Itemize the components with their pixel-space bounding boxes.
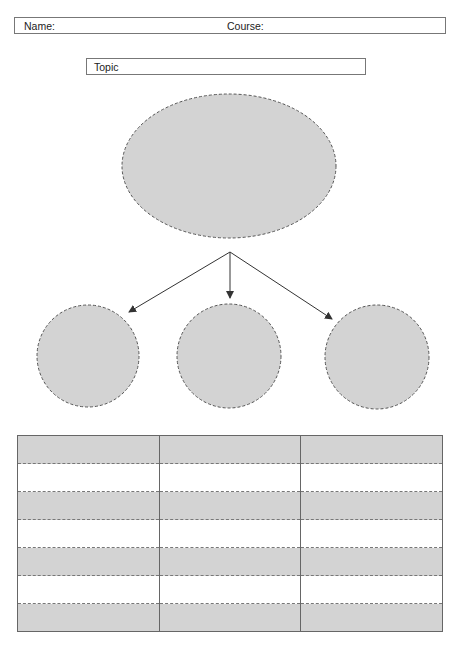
table-row xyxy=(18,604,443,632)
table-cell[interactable] xyxy=(18,492,160,520)
table-cell[interactable] xyxy=(159,604,301,632)
table-cell[interactable] xyxy=(18,520,160,548)
table-cell[interactable] xyxy=(18,576,160,604)
table-cell[interactable] xyxy=(301,464,443,492)
subtopic-circle-left[interactable] xyxy=(37,305,139,407)
table-cell[interactable] xyxy=(301,604,443,632)
main-topic-ellipse[interactable] xyxy=(122,94,336,238)
table-cell[interactable] xyxy=(159,436,301,464)
table-cell[interactable] xyxy=(301,576,443,604)
table-cell[interactable] xyxy=(301,492,443,520)
table-cell[interactable] xyxy=(18,464,160,492)
table-cell[interactable] xyxy=(18,548,160,576)
table-row xyxy=(18,492,443,520)
subtopic-circle-middle[interactable] xyxy=(177,304,281,408)
arrow-left xyxy=(129,252,230,312)
concept-diagram xyxy=(0,0,451,430)
table-row xyxy=(18,548,443,576)
table-cell[interactable] xyxy=(301,548,443,576)
notes-table xyxy=(17,435,443,632)
table-cell[interactable] xyxy=(18,604,160,632)
table-cell[interactable] xyxy=(159,548,301,576)
table-cell[interactable] xyxy=(159,492,301,520)
table-row xyxy=(18,576,443,604)
table-cell[interactable] xyxy=(159,520,301,548)
table-row xyxy=(18,464,443,492)
table-cell[interactable] xyxy=(301,520,443,548)
table-cell[interactable] xyxy=(18,436,160,464)
table-row xyxy=(18,520,443,548)
table-row xyxy=(18,436,443,464)
table-cell[interactable] xyxy=(159,576,301,604)
subtopic-circle-right[interactable] xyxy=(325,305,429,409)
table-cell[interactable] xyxy=(301,436,443,464)
table-cell[interactable] xyxy=(159,464,301,492)
